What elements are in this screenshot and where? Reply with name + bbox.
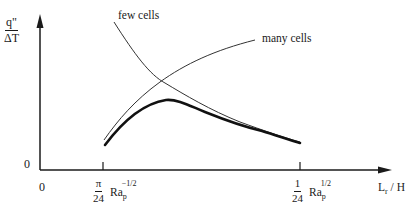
tick-2-denominator: 24 [292,192,303,205]
tick-1-numerator: π [95,178,103,192]
tick-1-fraction: π 24 [93,178,104,204]
y-origin-label: 0 [24,158,30,170]
tick-2-sub: p [322,192,326,201]
curve-many-cells [104,40,255,140]
x-axis-label-tail: / H [388,181,405,193]
y-axis-label: q" ΔT [4,16,19,44]
tick-1-base: Ra [110,186,123,198]
tick-1-sup: −1/2 [122,179,137,188]
tick-2-sup: 1/2 [321,179,331,188]
tick-2-expression: Rap1/2 [309,185,336,201]
x-axis-arrow-icon [378,167,392,174]
tick-2-numerator: 1 [294,178,302,192]
y-axis-label-numerator: q" [5,16,18,31]
x-origin-label: 0 [39,181,45,193]
x-axis-label: Lr / H [378,182,405,196]
tick-1-sub: p [123,192,127,201]
tick-2-base: Ra [309,186,322,198]
tick-1-denominator: 24 [93,192,104,205]
label-few-cells: few cells [118,10,159,22]
y-axis-label-denominator: ΔT [4,31,19,45]
tick-1-expression: Rap−1/2 [110,185,142,201]
tick-2-fraction: 1 24 [292,178,303,204]
y-axis-arrow-icon [37,14,44,28]
diagram-canvas [0,0,411,206]
curve-envelope [105,100,300,145]
label-many-cells: many cells [262,33,312,45]
x-axis-label-main: L [378,181,385,193]
